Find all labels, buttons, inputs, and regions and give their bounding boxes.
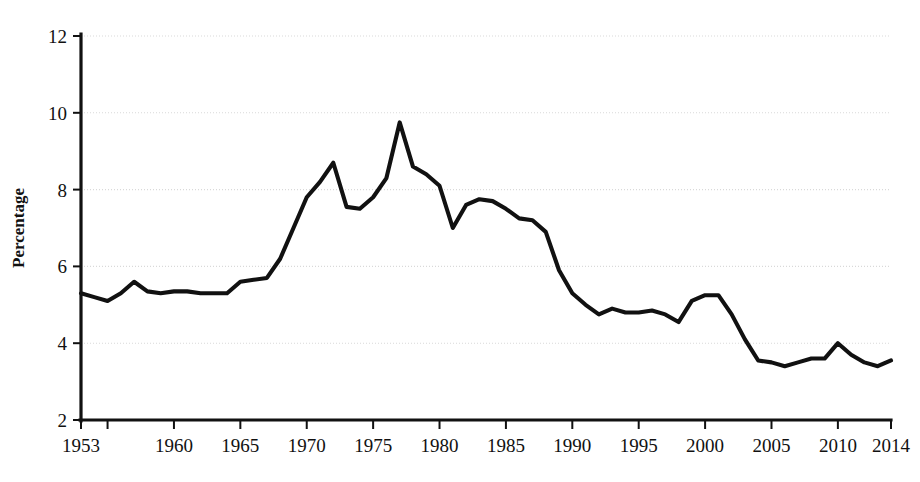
gridlines: [81, 36, 891, 343]
x-tick-label: 1980: [421, 435, 459, 456]
data-series-line: [81, 122, 891, 366]
y-tick-label: 4: [58, 333, 68, 354]
x-tick-label: 2000: [686, 435, 724, 456]
x-tick-label: 2010: [819, 435, 857, 456]
x-tick-label: 1965: [221, 435, 259, 456]
x-tick-label: 1975: [354, 435, 392, 456]
y-tick-label: 8: [58, 180, 68, 201]
line-chart: 24681012 1953196019651970197519801985199…: [0, 0, 920, 482]
y-axis-ticks: 24681012: [48, 26, 81, 431]
x-tick-label: 1985: [487, 435, 525, 456]
chart-container: 24681012 1953196019651970197519801985199…: [0, 0, 920, 482]
x-tick-label: 1960: [155, 435, 193, 456]
x-tick-label: 1995: [620, 435, 658, 456]
x-axis-ticks: 1953196019651970197519801985199019952000…: [62, 420, 911, 456]
x-tick-label: 2014: [872, 435, 911, 456]
x-tick-label: 1970: [288, 435, 326, 456]
y-tick-label: 12: [48, 26, 67, 47]
x-tick-label: 2005: [752, 435, 790, 456]
y-tick-label: 2: [58, 410, 68, 431]
x-tick-label: 1990: [553, 435, 591, 456]
y-tick-label: 6: [58, 256, 68, 277]
y-axis-label: Percentage: [9, 188, 28, 268]
y-tick-label: 10: [48, 103, 67, 124]
x-tick-label: 1953: [62, 435, 100, 456]
